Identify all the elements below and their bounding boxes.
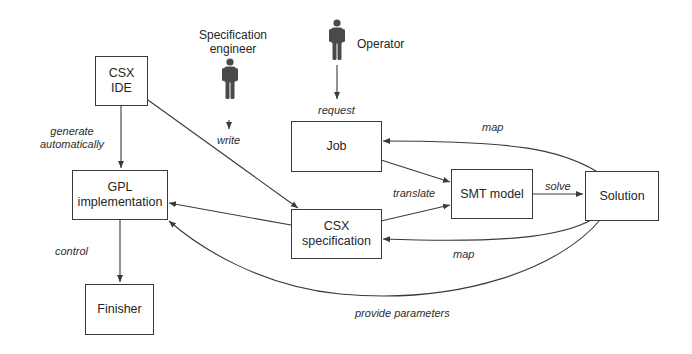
job-label: Job xyxy=(326,139,346,154)
edge-map-top xyxy=(383,141,596,171)
edge-map-bottom xyxy=(383,219,593,240)
spec-engineer-label-line1: Specification xyxy=(196,28,270,42)
edge-ide-to-spec xyxy=(148,100,298,208)
operator-person-icon xyxy=(328,19,346,61)
edge-label-request: request xyxy=(318,104,355,117)
edge-spec-to-gpl xyxy=(169,203,291,225)
operator-label: Operator xyxy=(357,37,404,51)
node-solution: Solution xyxy=(585,171,659,221)
solution-label: Solution xyxy=(599,189,644,204)
edge-label-write: write xyxy=(217,134,240,147)
edge-label-map-top: map xyxy=(482,121,503,134)
csx-ide-line2: IDE xyxy=(109,81,135,96)
edge-label-control: control xyxy=(55,245,88,258)
csx-ide-line1: CSX xyxy=(109,66,135,81)
edge-label-translate: translate xyxy=(393,187,435,200)
node-finisher: Finisher xyxy=(85,284,154,335)
edge-label-solve: solve xyxy=(545,180,571,193)
edge-provide-params xyxy=(169,220,600,296)
node-csx-specification: CSX specification xyxy=(291,209,382,259)
spec-engineer-label-line2: engineer xyxy=(196,42,270,56)
edge-label-generate: generate automatically xyxy=(35,125,109,151)
edge-spec-to-smt xyxy=(381,205,450,221)
node-csx-ide: CSX IDE xyxy=(95,56,148,106)
edge-label-provide-parameters: provide parameters xyxy=(355,307,450,320)
node-job: Job xyxy=(291,121,382,172)
generate-line1: generate xyxy=(35,125,109,138)
node-smt-model: SMT model xyxy=(451,169,533,219)
node-gpl-implementation: GPL implementation xyxy=(72,170,168,220)
csx-spec-line1: CSX xyxy=(302,219,371,234)
finisher-label: Finisher xyxy=(97,302,141,317)
spec-engineer-label: Specification engineer xyxy=(196,28,270,56)
gpl-line1: GPL xyxy=(78,180,163,195)
csx-spec-line2: specification xyxy=(302,234,371,249)
edge-job-to-smt xyxy=(381,160,450,182)
spec-engineer-person-icon xyxy=(221,58,239,100)
smt-model-label: SMT model xyxy=(460,187,524,202)
gpl-line2: implementation xyxy=(78,195,163,210)
edge-label-map-bottom: map xyxy=(453,248,474,261)
generate-line2: automatically xyxy=(35,138,109,151)
